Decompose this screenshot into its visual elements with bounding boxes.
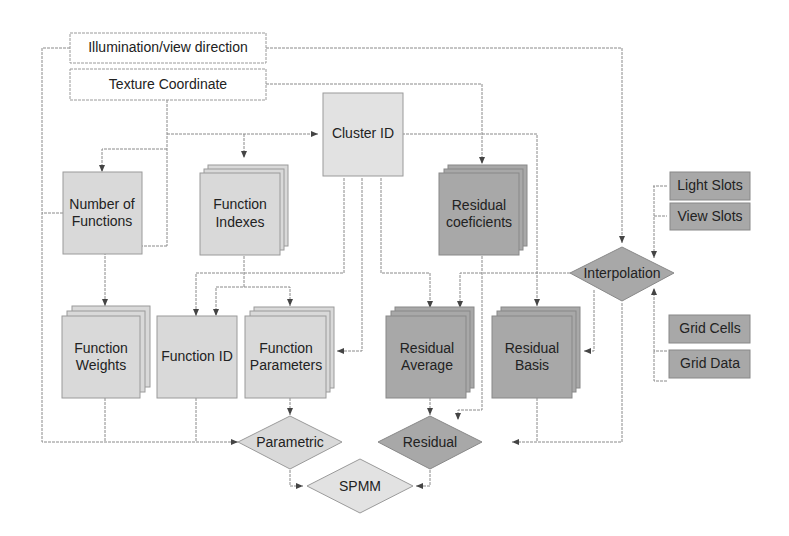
node-function-id: Function ID [157,316,237,398]
connector-interp-to-avg [460,273,570,308]
funcparams-label-2: Parameters [250,357,322,373]
node-view-slots: View Slots [670,203,750,230]
numfunc-label-2: Functions [72,213,133,229]
numfunc-label-1: Number of [69,196,134,212]
resavg-label-1: Residual [400,340,454,356]
grid-cells-label: Grid Cells [679,320,740,336]
view-slots-label: View Slots [677,208,742,224]
node-light-slots: Light Slots [670,172,750,200]
connector-idx-to-params [244,287,290,306]
node-function-parameters: Function Parameters [245,307,334,398]
node-function-weights: Function Weights [62,306,150,398]
funcweights-label-2: Weights [76,357,126,373]
rescoef-label-1: Residual [452,197,506,213]
connector-grid-to-interp [654,288,667,351]
funcidx-label-2: Indexes [215,214,264,230]
resavg-label-2: Average [401,357,453,373]
decision-interpolation: Interpolation [570,247,674,301]
input-illumination: Illumination/view direction [70,33,266,63]
connector-slots-to-interp [653,186,654,258]
connector-texture-to-weights [105,246,167,306]
light-slots-label: Light Slots [677,177,742,193]
funcid-label: Function ID [161,348,233,364]
funcparams-label-1: Function [259,340,313,356]
resbasis-label-1: Residual [505,340,559,356]
input-texture-coordinate: Texture Coordinate [70,69,266,100]
node-grid-data: Grid Data [669,350,750,378]
cluster-id-label: Cluster ID [332,125,394,141]
spmm-label: SPMM [339,478,381,494]
connector-griddata [654,351,667,381]
interpolation-label: Interpolation [583,265,660,281]
node-number-of-functions: Number of Functions [63,172,142,254]
node-residual-coeficients: Residual coeficients [439,165,527,255]
node-residual-basis: Residual Basis [492,307,580,398]
node-grid-cells: Grid Cells [669,315,750,343]
parametric-label: Parametric [256,434,324,450]
connector-idx-to-funcid [216,256,244,316]
decision-parametric: Parametric [238,416,342,469]
funcidx-label-1: Function [213,196,267,212]
node-function-indexes: Function Indexes [200,165,288,255]
connector-cluster-to-params [337,178,362,351]
rescoef-label-2: coeficients [446,214,512,230]
input-illumination-label: Illumination/view direction [88,39,248,55]
input-texture-label: Texture Coordinate [109,76,228,92]
grid-data-label: Grid Data [680,355,740,371]
decision-spmm: SPMM [307,459,413,513]
funcweights-label-1: Function [74,340,128,356]
connector-residual-to-spmm [416,470,430,486]
node-residual-average: Residual Average [386,307,474,398]
connector-texture-to-numfunc [102,149,167,172]
resbasis-label-2: Basis [515,357,549,373]
node-cluster-id: Cluster ID [323,93,403,176]
decision-residual: Residual [378,416,482,469]
connector-cluster-to-avg [381,178,430,308]
connector-parametric-to-spmm [290,470,303,486]
spmm-flow-diagram: Illumination/view direction Texture Coor… [0,0,789,536]
residual-label: Residual [403,434,457,450]
connector-interp-to-basis [584,290,594,351]
